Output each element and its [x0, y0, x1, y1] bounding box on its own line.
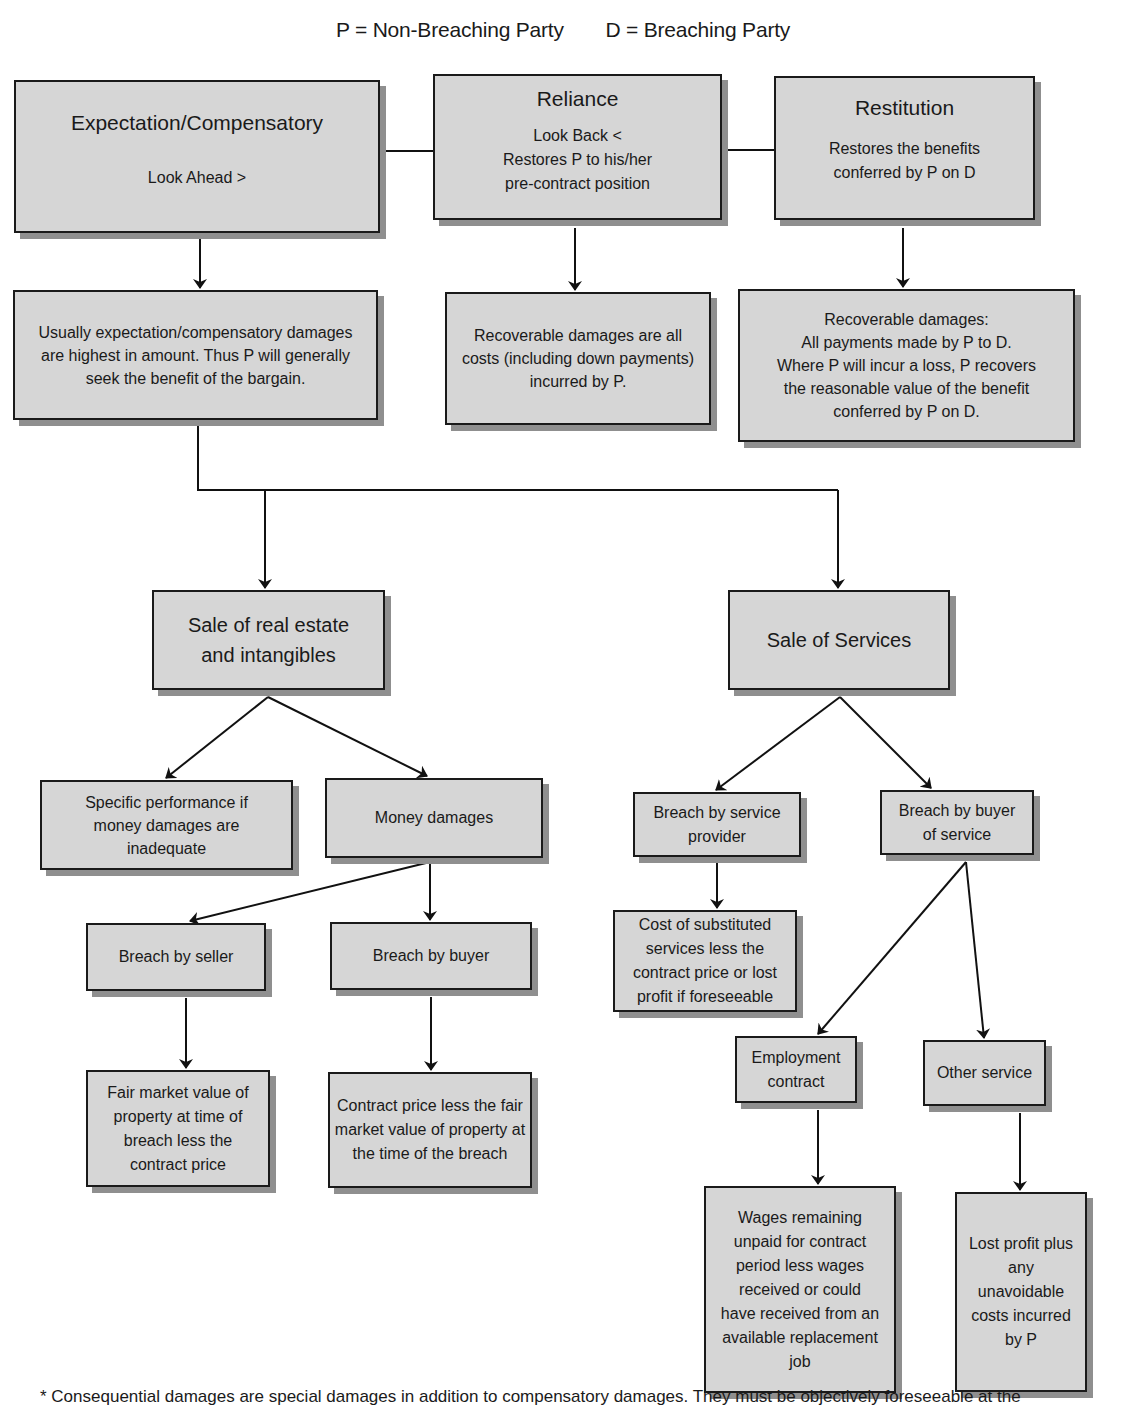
breach-by-buyer-box: Breach by buyer: [330, 922, 532, 990]
breach-by-seller-text: Breach by seller: [119, 946, 234, 968]
services-title: Sale of Services: [767, 625, 912, 655]
breach-by-provider-box: Breach by service provider: [633, 792, 801, 857]
restitution-detail-line-5: conferred by P on D.: [833, 400, 979, 423]
employment-contract-text: Employment contract: [747, 1046, 845, 1094]
other-service-box: Other service: [923, 1040, 1046, 1106]
employment-remedy-text: Wages remaining unpaid for contract peri…: [720, 1206, 880, 1374]
expectation-detail-box: Usually expectation/compensatory damages…: [13, 290, 378, 420]
restitution-sub-2: conferred by P on D: [833, 161, 975, 185]
restitution-detail-line-2: All payments made by P to D.: [801, 331, 1011, 354]
footnote: * Consequential damages are special dama…: [40, 1387, 1021, 1407]
breach-by-buyer-text: Breach by buyer: [373, 945, 490, 967]
employment-remedy-box: Wages remaining unpaid for contract peri…: [704, 1186, 896, 1393]
expectation-box: Expectation/Compensatory Look Ahead >: [14, 80, 380, 233]
breach-by-buyer-of-service-box: Breach by buyer of service: [880, 790, 1034, 855]
breach-by-buyer-of-service-text: Breach by buyer of service: [890, 799, 1024, 847]
employment-contract-box: Employment contract: [735, 1036, 857, 1103]
breach-by-provider-text: Breach by service provider: [637, 801, 797, 849]
reliance-sub-1: Look Back <: [533, 124, 622, 148]
buyer-remedy-text: Contract price less the fair market valu…: [334, 1094, 526, 1166]
breach-by-seller-box: Breach by seller: [86, 923, 266, 991]
other-remedy-text: Lost profit plus any unavoidable costs i…: [963, 1232, 1079, 1352]
money-damages-box: Money damages: [325, 778, 543, 858]
restitution-box: Restitution Restores the benefits confer…: [774, 76, 1035, 220]
expectation-title: Expectation/Compensatory: [71, 110, 323, 136]
other-service-text: Other service: [937, 1062, 1032, 1084]
expectation-detail-text: Usually expectation/compensatory damages…: [29, 321, 362, 390]
real-estate-title: Sale of real estate and intangibles: [182, 610, 355, 670]
real-estate-box: Sale of real estate and intangibles: [152, 590, 385, 690]
seller-remedy-box: Fair market value of property at time of…: [86, 1070, 270, 1187]
expectation-sub: Look Ahead >: [148, 166, 246, 190]
restitution-detail-box: Recoverable damages: All payments made b…: [738, 289, 1075, 442]
reliance-sub-3: pre-contract position: [505, 172, 650, 196]
restitution-title: Restitution: [855, 95, 954, 121]
reliance-box: Reliance Look Back < Restores P to his/h…: [433, 74, 722, 220]
reliance-sub-2: Restores P to his/her: [503, 148, 652, 172]
restitution-detail-line-1: Recoverable damages:: [824, 308, 989, 331]
reliance-title: Reliance: [537, 86, 619, 112]
provider-remedy-text: Cost of substituted services less the co…: [621, 913, 789, 1009]
reliance-detail-text: Recoverable damages are all costs (inclu…: [457, 324, 699, 393]
reliance-detail-box: Recoverable damages are all costs (inclu…: [445, 292, 711, 425]
specific-performance-box: Specific performance if money damages ar…: [40, 780, 293, 870]
services-box: Sale of Services: [728, 590, 950, 690]
seller-remedy-text: Fair market value of property at time of…: [98, 1081, 258, 1177]
specific-performance-text: Specific performance if money damages ar…: [60, 791, 273, 860]
restitution-sub-1: Restores the benefits: [829, 137, 980, 161]
restitution-detail-line-3: Where P will incur a loss, P recovers: [777, 354, 1036, 377]
provider-remedy-box: Cost of substituted services less the co…: [613, 910, 797, 1012]
buyer-remedy-box: Contract price less the fair market valu…: [328, 1072, 532, 1188]
restitution-detail-line-4: the reasonable value of the benefit: [784, 377, 1030, 400]
money-damages-text: Money damages: [375, 807, 493, 829]
other-remedy-box: Lost profit plus any unavoidable costs i…: [955, 1192, 1087, 1392]
